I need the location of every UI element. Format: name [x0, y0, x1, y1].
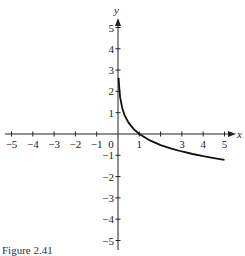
y-tick-label: 2 [109, 85, 115, 97]
y-tick-label: −5 [102, 235, 114, 247]
figure-caption: Figure 2.41 [2, 244, 53, 256]
y-tick-label: −2 [102, 171, 114, 183]
function-curve [119, 78, 225, 160]
axes [5, 18, 236, 250]
y-tick-label: 1 [109, 107, 115, 119]
y-tick-label: −4 [102, 213, 114, 225]
y-tick-label: 4 [109, 43, 115, 55]
x-tick-label: 3 [179, 138, 185, 150]
x-tick-label: 1 [137, 138, 143, 150]
y-axis-arrow-icon [115, 18, 121, 26]
y-axis-label: y [113, 4, 119, 16]
x-tick-label: −5 [6, 138, 18, 150]
x-tick-label: 5 [222, 138, 228, 150]
x-tick-label: −3 [48, 138, 60, 150]
x-tick-label: −2 [70, 138, 82, 150]
x-axis-arrow-icon [228, 131, 236, 137]
x-axis-label: x [236, 128, 242, 140]
x-tick-label: −1 [91, 138, 103, 150]
y-tick-label: 3 [109, 64, 115, 76]
y-tick-label: −3 [102, 192, 114, 204]
y-tick-label: −1 [102, 149, 114, 161]
x-tick-label: 4 [200, 138, 206, 150]
x-tick-label: 0 [108, 138, 114, 150]
x-tick-label: −4 [27, 138, 39, 150]
y-tick-label: 5 [109, 22, 115, 34]
